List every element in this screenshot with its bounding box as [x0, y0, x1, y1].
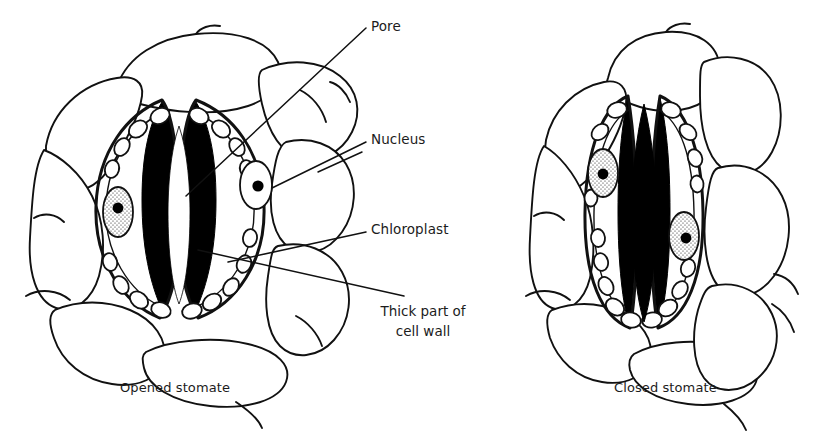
chloroplast-icon: [220, 275, 242, 299]
nucleus-right-guard-cell-closed: [669, 212, 699, 260]
label-nucleus: Nucleus: [371, 131, 425, 147]
stomate-diagram-svg: [0, 0, 816, 436]
label-thick-cell-wall-line2: cell wall: [364, 322, 482, 342]
chloroplast-icon: [690, 175, 705, 193]
label-thick-cell-wall: Thick part of cell wall: [364, 302, 482, 341]
caption-opened-stomate: Opened stomate: [120, 380, 230, 395]
nucleus-right-guard-cell-open: [240, 161, 272, 209]
nucleus-left-guard-cell-open: [103, 187, 133, 237]
opened-stomate-diagram: [26, 25, 357, 428]
closed-stomate-diagram: [526, 23, 798, 430]
caption-closed-stomate: Closed stomate: [614, 380, 717, 395]
label-chloroplast: Chloroplast: [371, 221, 449, 237]
chloroplast-icon: [200, 290, 225, 314]
label-pore: Pore: [371, 18, 401, 34]
label-thick-cell-wall-line1: Thick part of: [364, 302, 482, 322]
chloroplast-icon: [592, 252, 610, 273]
stomate-figure: Pore Nucleus Chloroplast Thick part of c…: [0, 0, 816, 436]
chloroplast-icon: [127, 288, 152, 312]
chloroplast-icon: [676, 120, 699, 143]
nucleus-left-guard-cell-closed: [588, 149, 618, 197]
chloroplast-icon: [685, 147, 705, 169]
chloroplast-icon: [242, 228, 258, 248]
